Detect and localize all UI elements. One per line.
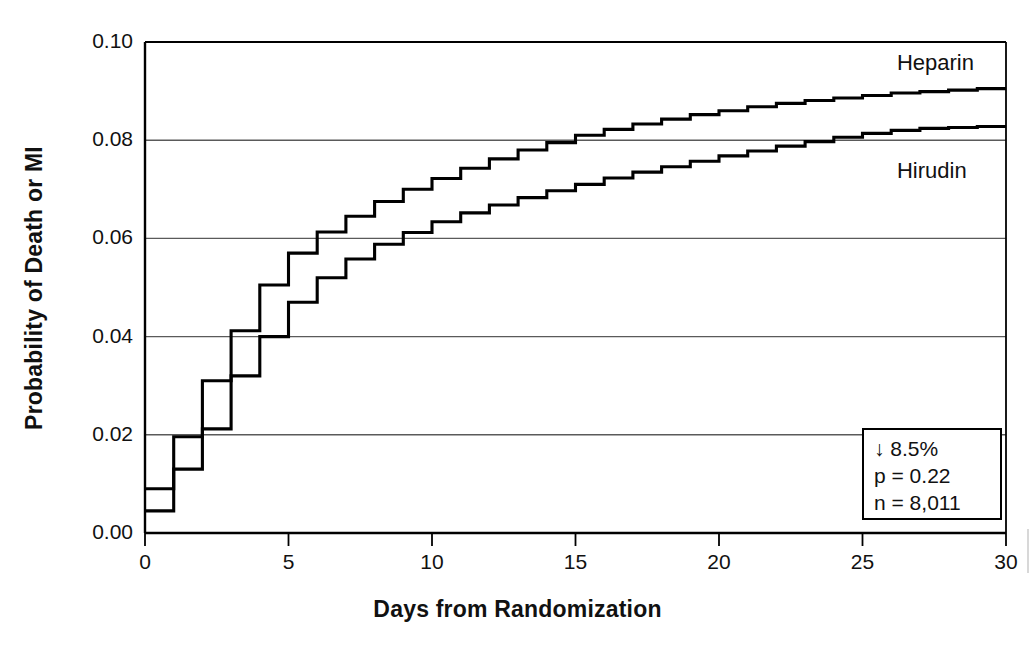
y-axis-title: Probability of Death or MI [21, 146, 48, 430]
y-tick-label: 0.08 [49, 127, 133, 151]
x-tick-label: 15 [546, 550, 606, 574]
stats-p-value: p = 0.22 [874, 462, 1000, 489]
y-tick-label: 0.10 [49, 29, 133, 53]
series-label-heparin: Heparin [897, 50, 974, 76]
x-tick-label: 10 [402, 550, 462, 574]
x-tick-label: 25 [833, 550, 893, 574]
x-tick-label: 20 [689, 550, 749, 574]
stats-sample-size: n = 8,011 [874, 489, 1000, 516]
stats-reduction: ↓ 8.5% [874, 435, 1000, 462]
x-axis-title: Days from Randomization [0, 596, 1035, 623]
y-tick-label: 0.04 [49, 324, 133, 348]
y-tick-label: 0.06 [49, 225, 133, 249]
x-tick-label: 5 [259, 550, 319, 574]
stats-annotation-box: ↓ 8.5% p = 0.22 n = 8,011 [862, 428, 1002, 520]
x-tick-marks [145, 533, 1006, 546]
kaplan-meier-figure: Probability of Death or MI Days from Ran… [0, 0, 1035, 651]
y-tick-label: 0.02 [49, 422, 133, 446]
x-tick-label: 0 [115, 550, 175, 574]
page-edge-artifact [1027, 529, 1029, 573]
series-label-hirudin: Hirudin [897, 158, 967, 184]
y-tick-label: 0.00 [49, 520, 133, 544]
